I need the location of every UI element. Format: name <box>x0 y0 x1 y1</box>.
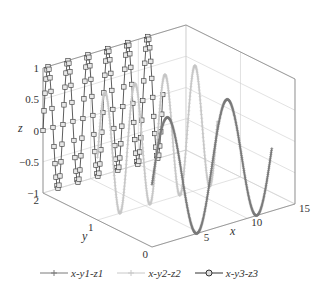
z-axis-label: z <box>17 121 23 135</box>
legend-label: x-y2-z2 <box>148 267 180 279</box>
tick-label: 5 <box>204 231 210 243</box>
tick-label: 1 <box>34 62 40 74</box>
tick-label: 15 <box>299 202 311 214</box>
legend: x-y1-z1 x-y2-z2 x-y3-z3 <box>40 267 258 279</box>
plus-marker-icon <box>117 268 145 278</box>
tick-label: −0.5 <box>19 156 39 168</box>
circle-marker-icon <box>195 268 223 278</box>
tick-label: 2 <box>34 194 40 206</box>
tick-label: 10 <box>251 216 263 228</box>
legend-item-series-1: x-y1-z1 <box>40 267 103 279</box>
3d-line-plot: −1−0.500.5101251015 z y x <box>0 0 324 293</box>
tick-label: 1 <box>88 221 94 233</box>
legend-label: x-y3-z3 <box>226 267 258 279</box>
tick-label: 0.5 <box>25 93 39 105</box>
legend-item-series-2: x-y2-z2 <box>117 267 180 279</box>
legend-label: x-y1-z1 <box>71 267 103 279</box>
data-curves <box>41 34 273 235</box>
legend-item-series-3: x-y3-z3 <box>195 267 258 279</box>
tick-label: 0 <box>143 248 149 260</box>
tick-label: 0 <box>34 125 40 137</box>
x-axis-label: x <box>229 224 236 238</box>
plus-marker-icon <box>40 268 68 278</box>
y-axis-label: y <box>81 229 88 243</box>
